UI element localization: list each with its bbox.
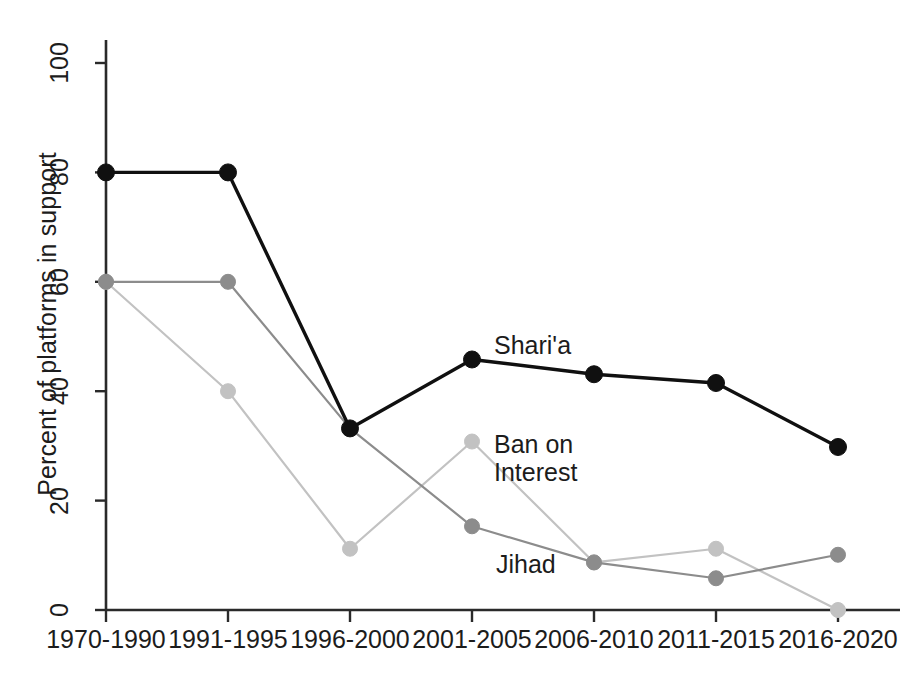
data-point bbox=[98, 164, 115, 181]
data-point bbox=[465, 434, 480, 449]
series-jihad bbox=[99, 274, 846, 585]
series-shari-a bbox=[98, 164, 847, 456]
series-line bbox=[106, 172, 838, 447]
line-chart: Percent of platforms in support 02040608… bbox=[0, 0, 912, 682]
series-label-jihad: Jihad bbox=[496, 550, 556, 578]
data-point bbox=[586, 366, 603, 383]
data-point bbox=[831, 547, 846, 562]
series-ban-on-interest bbox=[99, 274, 846, 617]
plot-area bbox=[0, 0, 912, 682]
data-point bbox=[708, 374, 725, 391]
data-point bbox=[830, 438, 847, 455]
data-point bbox=[343, 541, 358, 556]
data-point bbox=[709, 571, 724, 586]
data-point bbox=[220, 164, 237, 181]
data-point bbox=[587, 555, 602, 570]
series-label-sharia: Shari'a bbox=[494, 331, 571, 359]
data-point bbox=[465, 519, 480, 534]
data-point bbox=[464, 351, 481, 368]
data-point bbox=[99, 274, 114, 289]
data-point bbox=[709, 541, 724, 556]
data-point bbox=[221, 274, 236, 289]
series-label-ban-on-interest: Ban on Interest bbox=[494, 430, 577, 486]
data-point bbox=[831, 603, 846, 618]
data-point bbox=[342, 420, 359, 437]
data-point bbox=[221, 384, 236, 399]
